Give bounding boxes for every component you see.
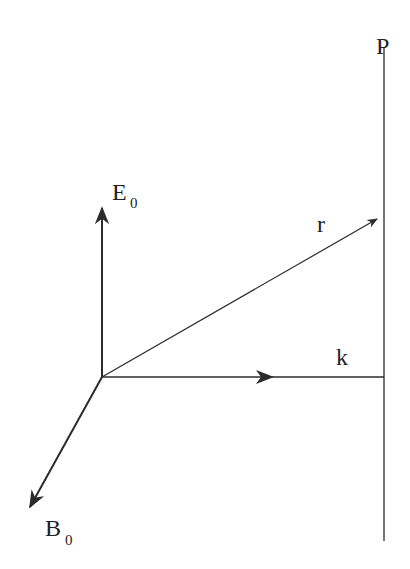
plane-label: P [376, 33, 389, 59]
b-field-arrow [30, 377, 102, 507]
r-vector-label: r [317, 211, 325, 237]
b-field-subscript: 0 [65, 532, 73, 548]
k-vector-label: k [336, 344, 348, 370]
wave-diagram: P E 0 r k B 0 [0, 0, 410, 569]
e-field-label: E [112, 179, 127, 205]
b-field-label: B [45, 515, 61, 541]
e-field-subscript: 0 [130, 195, 138, 211]
